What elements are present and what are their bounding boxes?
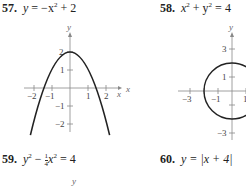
x-tick-label: −2 — [27, 91, 37, 101]
y-tick-label: 3 — [222, 44, 227, 54]
y-tick-label: 1 — [60, 65, 65, 75]
y-tick-label: −3 — [217, 128, 227, 138]
x-tick-label: −1 — [45, 91, 55, 101]
graphs-canvas: x y −2 −1 1 2 2 1 −1 −2 y x — [0, 0, 246, 186]
x-axis-label: x — [116, 89, 121, 99]
y-tick-label: 1 — [222, 72, 227, 82]
x-tick-label: 2 — [104, 91, 109, 101]
y-axis-label: y — [66, 22, 71, 32]
y-axis-arrow-icon — [68, 32, 72, 37]
x-tick-label: 1 — [86, 91, 91, 101]
y-axis-arrow-icon — [230, 32, 234, 37]
x-tick-label: −3 — [182, 94, 192, 104]
x-tick-label: −1 — [211, 94, 221, 104]
graph-57: x y −2 −1 1 2 2 1 −1 −2 — [24, 22, 122, 135]
y-tick-label: −2 — [55, 119, 65, 129]
graph-58: y x −3 −1 1 3 1 −3 — [178, 22, 246, 140]
y-tick-label: −1 — [55, 101, 65, 111]
graph-59-y-axis-label: y — [71, 176, 76, 186]
y-axis-label: y — [228, 22, 233, 32]
x-axis-label: x — [125, 84, 130, 94]
x-tick-label: 1 — [243, 94, 246, 104]
